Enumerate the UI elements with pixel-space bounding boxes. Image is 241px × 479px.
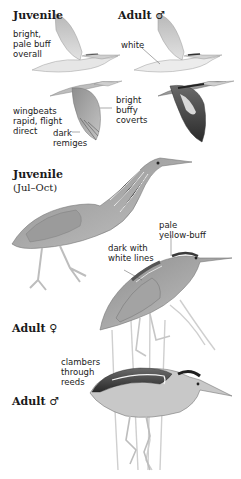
adult-male-flight-upstroke-bird [134, 14, 222, 72]
juvenile-standing-heading: Juvenile [13, 168, 63, 181]
white-note: white [121, 40, 144, 50]
juvenile-season: (Jul–Oct) [13, 182, 57, 194]
dark-with-white-lines-note: dark with white lines [108, 243, 154, 263]
adult-male-flight-downstroke-bird [158, 81, 234, 142]
adult-male-perched-heading: Adult ♂ [12, 395, 59, 408]
pale-yellow-buff-note: pale yellow-buff [159, 220, 206, 240]
dark-remiges-note: dark remiges [53, 128, 87, 148]
juvenile-flight-note: bright, pale buff overall [13, 29, 51, 59]
field-guide-plate: Juvenile bright, pale buff overall Adult… [0, 0, 241, 479]
adult-male-flight-heading: Adult ♂ [118, 9, 165, 22]
bright-buffy-coverts-note: bright buffy coverts [116, 95, 147, 125]
juvenile-flight-heading: Juvenile [13, 9, 63, 22]
adult-female-heading: Adult ♀ [12, 322, 57, 335]
clambers-through-reeds-note: clambers through reeds [61, 357, 100, 387]
